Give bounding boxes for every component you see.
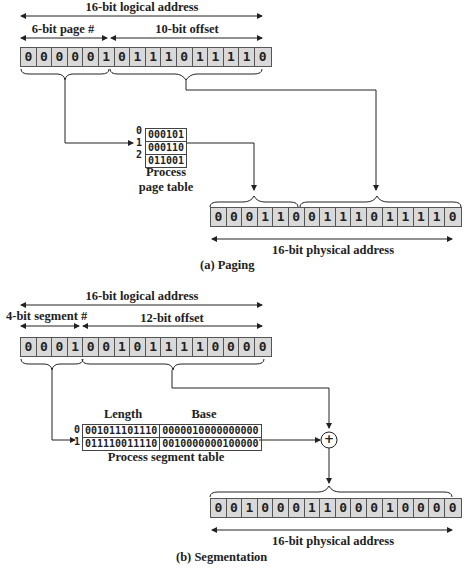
page-table-entry: 000110	[146, 142, 186, 154]
segmentation-logical-address-bits: 0 0 0 1 0 0 1 0 1 1 1 1 0 0 0 0	[20, 337, 272, 357]
bit: 0	[52, 338, 68, 356]
bit: 0	[211, 499, 227, 517]
bit: 0	[83, 48, 99, 66]
bit: 1	[429, 208, 445, 226]
bit: 0	[258, 499, 274, 517]
segment-length: 001011101110	[83, 425, 159, 437]
page-table-caption-line1: Process	[146, 165, 186, 180]
bit: 1	[258, 208, 274, 226]
bit: 1	[239, 48, 255, 66]
segment-table-row: 001011101110 0000010000000000	[83, 425, 261, 438]
bit: 1	[414, 208, 430, 226]
bit: 1	[115, 338, 131, 356]
segmentation-logical-address-label: 16-bit logical address	[86, 289, 199, 304]
segment-table-base-header: Base	[192, 407, 217, 422]
bit: 0	[273, 499, 289, 517]
bit: 0	[255, 48, 271, 66]
bit: 1	[68, 338, 84, 356]
bit: 1	[208, 48, 224, 66]
segment-length: 011110011110	[83, 438, 159, 450]
bit: 0	[177, 48, 193, 66]
bit: 0	[305, 208, 321, 226]
bit: 0	[227, 208, 243, 226]
segmentation-caption: (b) Segmentation	[176, 550, 267, 565]
bit: 0	[445, 499, 461, 517]
page-table-row: 000110	[146, 142, 186, 155]
bit: 0	[37, 338, 53, 356]
bit: 1	[305, 499, 321, 517]
bit: 1	[146, 338, 162, 356]
process-page-table: 000101 000110 011001	[145, 128, 187, 168]
bit: 0	[99, 338, 115, 356]
bit: 1	[320, 499, 336, 517]
paging-physical-address-bits: 0 0 0 1 1 0 0 1 1 1 0 1 1 1 1 0	[210, 207, 462, 227]
segment-base: 0010000000100000	[159, 438, 260, 450]
paging-logical-address-label: 16-bit logical address	[86, 0, 199, 15]
bit: 0	[68, 48, 84, 66]
bit: 0	[289, 208, 305, 226]
page-number-label: 6-bit page #	[32, 22, 95, 37]
bit: 1	[161, 48, 177, 66]
bit: 1	[398, 208, 414, 226]
process-segment-table: 001011101110 0000010000000000 0111100111…	[82, 424, 262, 451]
page-table-index: 1	[136, 137, 142, 148]
bit: 1	[99, 48, 115, 66]
bit: 0	[211, 208, 227, 226]
bit: 0	[242, 208, 258, 226]
page-table-entry: 000101	[146, 129, 186, 141]
bit: 0	[398, 499, 414, 517]
bit: 1	[320, 208, 336, 226]
segment-table-caption: Process segment table	[108, 450, 224, 465]
paging-physical-address-label: 16-bit physical address	[272, 243, 394, 258]
bit: 0	[37, 48, 53, 66]
segment-table-index: 0	[74, 424, 80, 435]
bit: 1	[351, 208, 367, 226]
page-table-index: 0	[136, 125, 142, 136]
bit: 1	[224, 48, 240, 66]
bit: 0	[336, 499, 352, 517]
segment-table-length-header: Length	[104, 407, 142, 422]
bit: 0	[130, 338, 146, 356]
paging-caption: (a) Paging	[200, 258, 255, 273]
bit: 1	[273, 208, 289, 226]
segment-table-row: 011110011110 0010000000100000	[83, 438, 261, 450]
bit: 1	[193, 338, 209, 356]
bit: 0	[414, 499, 430, 517]
bit: 0	[367, 499, 383, 517]
adder-icon: +	[324, 432, 334, 446]
bit: 0	[21, 338, 37, 356]
bit: 0	[208, 338, 224, 356]
diagram-lines	[0, 0, 464, 570]
bit: 0	[367, 208, 383, 226]
bit: 1	[161, 338, 177, 356]
bit: 1	[193, 48, 209, 66]
segment-base: 0000010000000000	[159, 425, 260, 437]
page-table-caption-line2: page table	[139, 180, 194, 195]
bit: 1	[146, 48, 162, 66]
bit: 0	[289, 499, 305, 517]
bit: 0	[255, 338, 271, 356]
bit: 1	[130, 48, 146, 66]
bit: 0	[445, 208, 461, 226]
page-table-row: 000101	[146, 129, 186, 142]
page-table-index: 2	[136, 149, 142, 160]
segment-number-label: 4-bit segment #	[6, 309, 87, 324]
segmentation-offset-label: 12-bit offset	[140, 311, 204, 326]
bit: 1	[336, 208, 352, 226]
bit: 0	[224, 338, 240, 356]
bit: 1	[177, 338, 193, 356]
bit: 0	[239, 338, 255, 356]
bit: 1	[383, 208, 399, 226]
bit: 0	[21, 48, 37, 66]
segmentation-physical-address-bits: 0 0 1 0 0 0 1 1 0 0 0 1 0 0 0 0	[210, 498, 462, 518]
bit: 0	[227, 499, 243, 517]
bit: 0	[351, 499, 367, 517]
bit: 1	[383, 499, 399, 517]
bit: 0	[429, 499, 445, 517]
paging-offset-label: 10-bit offset	[155, 22, 219, 37]
bit: 0	[83, 338, 99, 356]
paging-logical-address-bits: 0 0 0 0 0 1 0 1 1 1 0 1 1 1 1 0	[20, 47, 272, 67]
segment-table-index: 1	[74, 436, 80, 447]
bit: 0	[52, 48, 68, 66]
bit: 0	[115, 48, 131, 66]
